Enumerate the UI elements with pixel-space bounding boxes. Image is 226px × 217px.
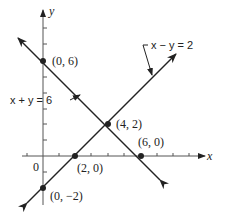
point-label-4-2: (4, 2) bbox=[116, 117, 142, 131]
x-axis bbox=[22, 153, 205, 156]
y-axis-label: y bbox=[48, 4, 55, 18]
point-label-2-0: (2, 0) bbox=[77, 161, 103, 175]
point-2-0 bbox=[72, 153, 78, 159]
point-label-6-0: (6, 0) bbox=[138, 135, 164, 149]
point-4-2 bbox=[105, 121, 111, 127]
equation-label-x-minus-y: x − y = 2 bbox=[151, 39, 193, 51]
x-axis-label: x bbox=[206, 149, 213, 163]
point-label-0-6: (0, 6) bbox=[52, 54, 78, 68]
coordinate-plane: x y 0 (0, 6) (4, 2) (6, 0) (2, 0) (0, −2… bbox=[0, 0, 226, 217]
y-axis bbox=[43, 10, 47, 205]
origin-label: 0 bbox=[33, 160, 39, 174]
point-6-0 bbox=[138, 153, 144, 159]
point-0-6 bbox=[40, 58, 46, 64]
point-0-neg2 bbox=[40, 185, 46, 191]
point-label-0-neg2: (0, −2) bbox=[50, 189, 83, 203]
equation-label-x-plus-y: x + y = 6 bbox=[10, 94, 52, 106]
line-x-plus-y-equals-6 bbox=[18, 38, 160, 180]
line-x-minus-y-equals-2 bbox=[27, 54, 176, 203]
